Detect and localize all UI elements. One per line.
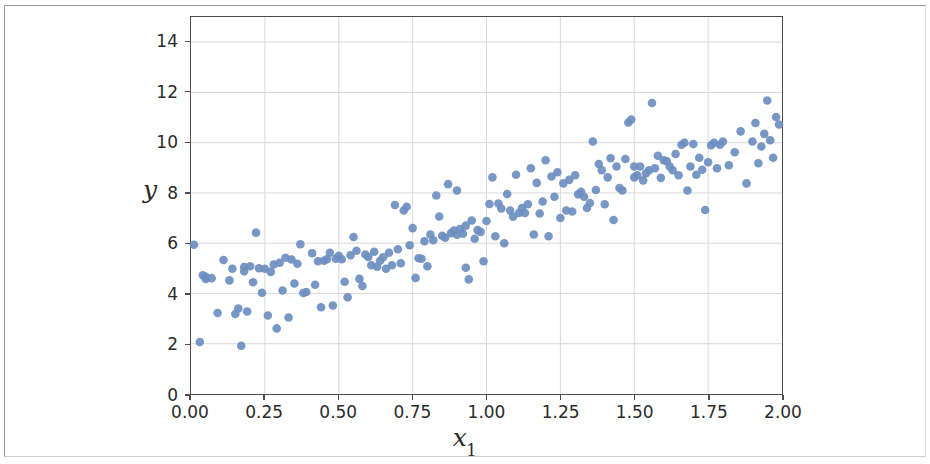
y-tick-mark — [185, 293, 190, 294]
scatter-point — [272, 324, 281, 333]
scatter-point — [760, 130, 769, 139]
scatter-point — [500, 239, 509, 248]
scatter-point — [467, 216, 476, 225]
x-tick-mark — [412, 395, 413, 400]
scatter-point — [627, 115, 636, 124]
scatter-point — [358, 282, 367, 291]
plot-area — [190, 16, 783, 395]
scatter-point — [397, 259, 406, 268]
scatter-point — [190, 240, 199, 249]
scatter-point — [337, 255, 346, 264]
scatter-point — [589, 137, 598, 146]
scatter-point — [394, 245, 403, 254]
scatter-point — [476, 228, 485, 237]
scatter-point — [411, 274, 420, 283]
x-tick-label: 2.00 — [738, 402, 828, 422]
scatter-point — [725, 161, 734, 170]
scatter-point — [748, 137, 757, 146]
scatter-point — [592, 186, 601, 195]
scatter-point — [228, 265, 237, 274]
scatter-point — [736, 127, 745, 136]
scatter-point — [207, 274, 216, 283]
scatter-plot-figure: y x1 024681012140.000.250.500.751.001.25… — [0, 0, 930, 464]
scatter-point — [258, 288, 267, 297]
scatter-point — [497, 204, 506, 213]
scatter-point — [698, 166, 707, 175]
scatter-point — [293, 260, 302, 269]
scatter-point — [308, 249, 317, 258]
scatter-point — [544, 232, 553, 241]
scatter-point — [429, 236, 438, 245]
scatter-point — [488, 173, 497, 182]
scatter-point — [775, 120, 784, 129]
scatter-point — [683, 186, 692, 195]
y-tick-mark — [185, 243, 190, 244]
scatter-point — [674, 171, 683, 180]
scatter-point — [597, 166, 606, 175]
scatter-point — [302, 288, 311, 297]
y-tick-mark — [185, 142, 190, 143]
scatter-point — [503, 190, 512, 199]
scatter-point — [340, 277, 349, 286]
y-tick-label: 10 — [118, 132, 178, 152]
scatter-point — [482, 217, 491, 226]
scatter-point — [532, 179, 541, 188]
scatter-point — [538, 197, 547, 206]
y-tick-label: 14 — [118, 31, 178, 51]
scatter-point — [621, 155, 630, 164]
scatter-point — [704, 158, 713, 167]
scatter-point — [730, 148, 739, 157]
scatter-point — [317, 303, 326, 312]
y-tick-label: 6 — [118, 233, 178, 253]
y-tick-mark — [185, 41, 190, 42]
scatter-point — [651, 164, 660, 173]
scatter-point — [352, 246, 361, 255]
scatter-point — [290, 279, 299, 288]
scatter-point — [763, 96, 772, 105]
scatter-point — [402, 202, 411, 211]
x-axis-label-base: x — [453, 423, 467, 452]
scatter-point — [311, 280, 320, 289]
scatter-point — [470, 234, 479, 243]
scatter-point — [713, 164, 722, 173]
scatter-point — [636, 162, 645, 171]
scatter-point — [213, 309, 222, 318]
x-axis-label: x1 — [0, 425, 930, 456]
scatter-point — [391, 201, 400, 210]
scatter-point — [671, 150, 680, 159]
scatter-point — [742, 179, 751, 188]
scatter-point — [284, 313, 293, 322]
scatter-point — [264, 311, 273, 320]
y-tick-mark — [185, 344, 190, 345]
scatter-point — [766, 136, 775, 145]
scatter-point — [349, 233, 358, 242]
scatter-point — [252, 228, 261, 237]
x-tick-mark — [263, 395, 264, 400]
scatter-point — [219, 256, 228, 265]
scatter-point — [420, 237, 429, 246]
scatter-point — [417, 255, 426, 264]
scatter-point — [556, 214, 565, 223]
scatter-point — [719, 137, 728, 146]
y-tick-label: 8 — [118, 183, 178, 203]
scatter-point — [527, 164, 536, 173]
scatter-point — [408, 224, 417, 233]
scatter-point — [571, 171, 580, 180]
y-tick-mark — [185, 192, 190, 193]
scatter-point — [657, 174, 666, 183]
scatter-point — [680, 138, 689, 147]
scatter-point — [329, 301, 338, 310]
scatter-point — [432, 191, 441, 200]
scatter-point — [757, 142, 766, 151]
x-tick-mark — [486, 395, 487, 400]
scatter-point — [754, 159, 763, 168]
scatter-point — [388, 261, 397, 270]
scatter-point — [296, 240, 305, 249]
scatter-point — [464, 275, 473, 284]
scatter-point — [535, 209, 544, 218]
scatter-point — [648, 99, 657, 108]
scatter-point — [479, 257, 488, 266]
y-tick-mark — [185, 91, 190, 92]
x-tick-mark — [634, 395, 635, 400]
scatter-point — [491, 232, 500, 241]
